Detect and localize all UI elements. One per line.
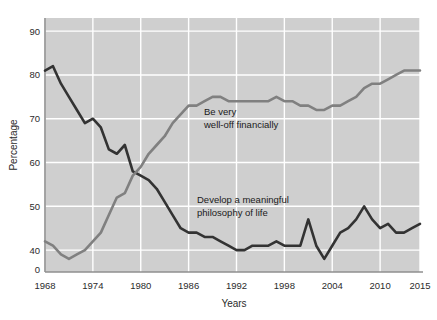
x-tick-label: 1974 bbox=[82, 280, 103, 291]
x-tick-label: 2004 bbox=[322, 280, 343, 291]
annotation-philosophy-line2: philosophy of life bbox=[197, 207, 268, 218]
x-axis-tick-labels: 196819741980198619921998200420102015 bbox=[34, 280, 430, 291]
y-tick-label: 70 bbox=[29, 113, 40, 124]
line-chart: 9080706050400 19681974198019861992199820… bbox=[0, 0, 437, 320]
y-tick-label: 60 bbox=[29, 157, 40, 168]
annotation-philosophy-line1: Develop a meaningful bbox=[197, 194, 289, 205]
x-tick-label: 2015 bbox=[409, 280, 430, 291]
annotation-wealth-line2: well-off financially bbox=[203, 119, 279, 130]
chart-figure: 9080706050400 19681974198019861992199820… bbox=[0, 0, 437, 320]
annotation-wealth-line1: Be very bbox=[204, 106, 236, 117]
x-tick-label: 1998 bbox=[274, 280, 295, 291]
x-tick-label: 1980 bbox=[130, 280, 151, 291]
y-tick-label: 40 bbox=[29, 245, 40, 256]
x-axis-title: Years bbox=[221, 298, 246, 309]
y-tick-label: 0 bbox=[35, 264, 40, 275]
x-tick-label: 1992 bbox=[226, 280, 247, 291]
x-tick-label: 2010 bbox=[370, 280, 391, 291]
y-tick-label: 90 bbox=[29, 26, 40, 37]
y-axis-title: Percentage bbox=[8, 119, 19, 171]
x-tick-label: 1968 bbox=[34, 280, 55, 291]
x-tick-label: 1986 bbox=[178, 280, 199, 291]
y-tick-label: 50 bbox=[29, 201, 40, 212]
y-tick-label: 80 bbox=[29, 69, 40, 80]
